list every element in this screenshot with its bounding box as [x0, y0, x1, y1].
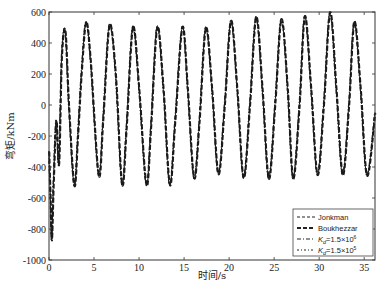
legend-label-boukhezzar: Boukhezzar — [318, 224, 358, 233]
legend-label-jonkman: Jonkman — [318, 213, 348, 222]
y-tick-label: 400 — [31, 38, 46, 49]
series-line-k-d-1-5-10-6 — [49, 12, 375, 240]
x-tick-label: 35 — [359, 262, 369, 273]
y-tick-label: 600 — [31, 7, 46, 18]
y-tick-label: -600 — [28, 193, 46, 204]
moment-time-chart: 05101520253035 -1000-800-600-400-2000200… — [0, 0, 384, 292]
x-tick-label: 0 — [47, 262, 52, 273]
y-tick-label: 200 — [31, 69, 46, 80]
y-tick-label: -400 — [28, 162, 46, 173]
y-tick-label: 0 — [41, 100, 46, 111]
x-tick-label: 10 — [134, 262, 144, 273]
x-tick-label: 5 — [92, 262, 97, 273]
y-tick-label: -800 — [28, 224, 46, 235]
series-line-k-d-1-5-10-5 — [49, 12, 375, 240]
y-tick-label: -1000 — [23, 255, 46, 266]
series-layer — [49, 12, 376, 241]
legend: Jonkman Boukhezzar Kd=1.5×106 Kd=1.5×105 — [293, 209, 373, 256]
series-line-jonkman — [49, 12, 375, 240]
y-axis-label: 弯矩/kNm — [4, 112, 16, 160]
y-tick-label: -200 — [28, 131, 46, 142]
x-axis-label: 时间/s — [198, 269, 227, 281]
x-tick-label: 30 — [314, 262, 324, 273]
x-tick-label: 25 — [269, 262, 279, 273]
x-tick-label: 15 — [179, 262, 189, 273]
